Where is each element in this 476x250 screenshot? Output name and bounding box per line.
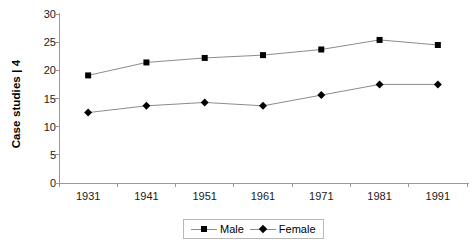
x-tick-label: 1981 — [350, 190, 410, 203]
data-point-square — [143, 59, 149, 65]
data-point-square — [260, 52, 266, 58]
x-tick-label: 1931 — [58, 190, 118, 203]
data-point-square — [318, 46, 324, 52]
x-tick-label: 1991 — [408, 190, 468, 203]
data-point-diamond — [317, 91, 325, 99]
x-tick-label: 1971 — [291, 190, 351, 203]
data-point-diamond — [201, 98, 209, 106]
data-point-square — [202, 55, 208, 61]
diamond-marker-icon — [250, 224, 276, 234]
series-female — [84, 80, 442, 116]
data-point-diamond — [259, 102, 267, 110]
data-point-square — [85, 72, 91, 78]
x-tick-label: 1951 — [175, 190, 235, 203]
x-tick-label: 1961 — [233, 190, 293, 203]
square-marker-icon — [191, 224, 217, 234]
legend-label-female: Female — [279, 223, 316, 235]
legend-item-female[interactable]: Female — [247, 223, 319, 235]
data-point-square — [435, 42, 441, 48]
data-point-diamond — [376, 80, 384, 88]
data-point-square — [377, 37, 383, 43]
plot-area — [0, 0, 476, 250]
legend-item-male[interactable]: Male — [188, 223, 247, 235]
data-point-diamond — [434, 80, 442, 88]
legend-label-male: Male — [220, 223, 244, 235]
chart-legend: Male Female — [183, 219, 324, 239]
x-axis-tick-labels: 1931194119511961197119811991 — [59, 190, 467, 206]
line-chart: Case studies | 4 051015202530 1931194119… — [0, 0, 476, 250]
data-point-diamond — [84, 109, 92, 117]
x-tick-label: 1941 — [116, 190, 176, 203]
series-male — [85, 37, 441, 78]
data-point-diamond — [142, 102, 150, 110]
